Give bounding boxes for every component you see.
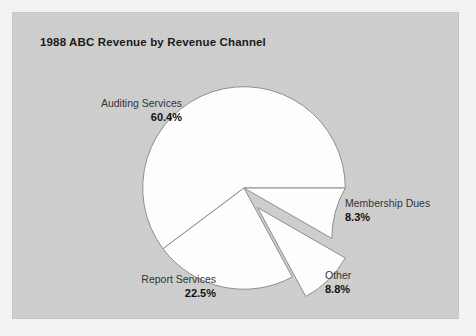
pie-label-membership-dues: Membership Dues 8.3%	[345, 196, 465, 224]
pie-label-membership-dues-value: 8.3%	[345, 210, 465, 224]
pie-chart-figure: 1988 ABC Revenue by Revenue Channel Audi…	[0, 0, 476, 336]
pie-label-auditing-services-name: Auditing Services	[62, 96, 182, 110]
pie-label-membership-dues-name: Membership Dues	[345, 196, 465, 210]
pie-label-other-value: 8.8%	[325, 282, 415, 296]
pie-label-auditing-services: Auditing Services 60.4%	[62, 96, 182, 124]
pie-label-report-services-name: Report Services	[96, 272, 216, 286]
pie-label-other-name: Other	[325, 268, 415, 282]
pie-label-auditing-services-value: 60.4%	[62, 110, 182, 124]
pie-label-report-services-value: 22.5%	[96, 286, 216, 300]
pie-label-other: Other 8.8%	[325, 268, 415, 296]
pie-label-report-services: Report Services 22.5%	[96, 272, 216, 300]
